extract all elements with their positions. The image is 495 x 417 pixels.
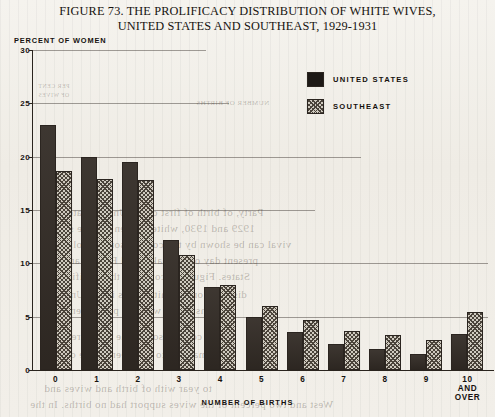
x-tick-label: 5 <box>259 375 264 384</box>
chart-plot-area: 051015202530 012345678910 AND OVER <box>33 50 488 370</box>
bar-united-states[interactable] <box>451 334 467 370</box>
bar-groups: 012345678910 AND OVER <box>33 50 488 370</box>
x-tick-label: 3 <box>177 375 182 384</box>
hatched-gray-swatch <box>307 99 324 114</box>
y-tick-label: 15 <box>20 206 30 215</box>
figure-title: FIGURE 73. THE PROLIFICACY DISTRIBUTION … <box>0 4 495 34</box>
x-tick-label: 9 <box>424 375 429 384</box>
chart-legend: UNITED STATESSOUTHEAST <box>307 72 409 126</box>
figure-title-line-1: FIGURE 73. THE PROLIFICACY DISTRIBUTION … <box>0 4 495 19</box>
bar-united-states[interactable] <box>287 332 303 370</box>
bar-southeast[interactable] <box>138 180 154 370</box>
legend-label: UNITED STATES <box>333 75 409 84</box>
bar-united-states[interactable] <box>328 344 344 370</box>
bar-southeast[interactable] <box>426 340 442 370</box>
bar-united-states[interactable] <box>204 287 220 370</box>
bar-southeast[interactable] <box>467 312 483 370</box>
bar-southeast[interactable] <box>262 306 278 370</box>
legend-item[interactable]: UNITED STATES <box>307 72 409 87</box>
figure-title-line-2: UNITED STATES AND SOUTHEAST, 1929-1931 <box>0 19 495 34</box>
bar-united-states[interactable] <box>122 162 138 370</box>
bar-group: 2 <box>117 50 158 370</box>
bar-southeast[interactable] <box>303 320 319 370</box>
x-tick-label: 0 <box>53 375 58 384</box>
x-axis-label: NUMBER OF BIRTHS <box>0 398 495 407</box>
y-tick-label: 10 <box>20 259 30 268</box>
solid-black-swatch <box>307 72 324 87</box>
y-tick-label: 0 <box>25 366 30 375</box>
x-tick-label: 10 AND OVER <box>455 375 481 402</box>
bar-southeast[interactable] <box>56 171 72 370</box>
y-tick-label: 20 <box>20 152 30 161</box>
bar-united-states[interactable] <box>81 157 97 370</box>
legend-item[interactable]: SOUTHEAST <box>307 99 409 114</box>
y-axis-label: PERCENT OF WOMEN <box>14 36 106 45</box>
bar-group: 5 <box>241 50 282 370</box>
bar-united-states[interactable] <box>410 354 426 370</box>
bar-group: 10 AND OVER <box>447 50 488 370</box>
y-tick-label: 30 <box>20 46 30 55</box>
x-tick-label: 6 <box>300 375 305 384</box>
bar-southeast[interactable] <box>344 331 360 370</box>
bar-united-states[interactable] <box>40 125 56 370</box>
x-tick-label: 7 <box>341 375 346 384</box>
bar-united-states[interactable] <box>369 349 385 370</box>
x-tick-label: 1 <box>94 375 99 384</box>
bar-united-states[interactable] <box>163 240 179 370</box>
bar-group: 9 <box>406 50 447 370</box>
y-tick-label: 25 <box>20 99 30 108</box>
bar-group: 3 <box>159 50 200 370</box>
bar-southeast[interactable] <box>97 179 113 370</box>
x-tick-label: 2 <box>135 375 140 384</box>
bar-group: 0 <box>35 50 76 370</box>
legend-label: SOUTHEAST <box>333 102 392 111</box>
y-tick-label: 5 <box>25 312 30 321</box>
x-tick-label: 8 <box>383 375 388 384</box>
bar-group: 1 <box>76 50 117 370</box>
bar-southeast[interactable] <box>220 285 236 370</box>
bar-group: 4 <box>200 50 241 370</box>
bar-united-states[interactable] <box>246 317 262 370</box>
bar-southeast[interactable] <box>179 255 195 370</box>
x-tick-label: 4 <box>218 375 223 384</box>
bar-southeast[interactable] <box>385 335 401 370</box>
